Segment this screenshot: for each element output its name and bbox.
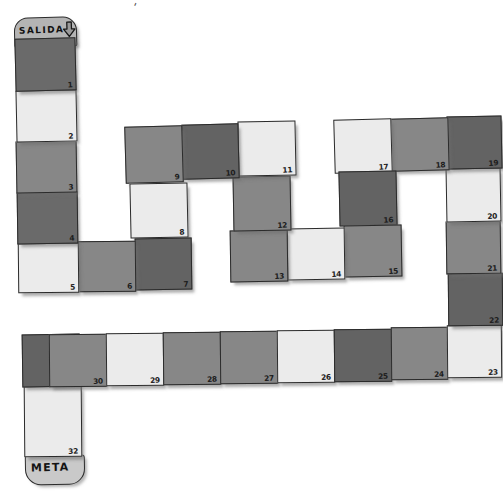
cell-number: 28 bbox=[207, 375, 217, 383]
cell-number: 16 bbox=[384, 216, 394, 224]
cell-number: 11 bbox=[283, 166, 293, 174]
cell-number: 20 bbox=[488, 212, 498, 220]
board-cell[interactable]: 24 bbox=[391, 327, 448, 380]
board-cell[interactable]: 3 bbox=[16, 140, 78, 193]
board-cell[interactable]: 8 bbox=[129, 182, 188, 238]
cell-number: 25 bbox=[378, 372, 388, 380]
cell-number: 17 bbox=[379, 163, 389, 171]
board-cell[interactable]: 22 bbox=[448, 273, 503, 327]
board-cell[interactable]: 4 bbox=[17, 192, 79, 245]
cell-number: 32 bbox=[68, 447, 78, 455]
game-board: ' SALIDA 1234567891011121314151617181920… bbox=[0, 0, 503, 491]
board-cell[interactable]: 30 bbox=[49, 334, 107, 388]
cell-number: 29 bbox=[150, 376, 160, 384]
cell-number: 9 bbox=[175, 173, 180, 181]
board-cell[interactable]: 1 bbox=[14, 37, 76, 91]
goal-label: META bbox=[31, 460, 70, 474]
down-arrow-icon bbox=[61, 21, 78, 39]
cell-number: 24 bbox=[434, 370, 444, 378]
board-cell[interactable]: 5 bbox=[18, 243, 80, 294]
board-cell[interactable]: 9 bbox=[124, 125, 184, 184]
cell-number: 30 bbox=[93, 377, 103, 385]
cell-number: 26 bbox=[321, 373, 331, 381]
board-cell[interactable]: 20 bbox=[446, 168, 502, 223]
board-cell[interactable]: 6 bbox=[78, 241, 137, 293]
cell-number: 2 bbox=[68, 132, 73, 140]
cell-number: 5 bbox=[70, 283, 75, 291]
cell-number: 8 bbox=[179, 228, 184, 236]
board-cell[interactable]: 12 bbox=[233, 175, 292, 231]
board-cell[interactable]: 27 bbox=[220, 331, 278, 385]
board-cell[interactable]: 18 bbox=[390, 117, 449, 171]
board-cell[interactable]: 28 bbox=[163, 332, 221, 386]
board-cell[interactable]: 25 bbox=[334, 329, 392, 383]
board-cell[interactable]: 17 bbox=[333, 118, 392, 174]
board-cell[interactable]: 16 bbox=[338, 170, 397, 226]
cell-number: 4 bbox=[69, 234, 74, 242]
cell-number: 1 bbox=[67, 81, 72, 89]
board-cell[interactable]: 26 bbox=[277, 330, 335, 384]
cell-number: 27 bbox=[264, 374, 274, 382]
board-cell[interactable]: 32 bbox=[24, 386, 83, 458]
cell-number: 14 bbox=[331, 270, 341, 278]
board-cell[interactable]: 10 bbox=[181, 123, 239, 179]
cell-number: 13 bbox=[274, 272, 284, 280]
cell-number: 22 bbox=[489, 316, 499, 324]
cell-number: 3 bbox=[68, 183, 73, 191]
board-cell[interactable]: 14 bbox=[287, 228, 346, 281]
cell-number: 15 bbox=[389, 267, 399, 275]
cell-number: 12 bbox=[278, 221, 288, 229]
cell-number: 7 bbox=[183, 280, 188, 288]
board-cell[interactable]: 23 bbox=[447, 325, 502, 378]
board-cell[interactable]: 7 bbox=[135, 238, 193, 291]
board-cell[interactable]: 29 bbox=[106, 333, 164, 387]
board-cell[interactable]: 15 bbox=[344, 224, 403, 277]
board-cell[interactable]: 21 bbox=[446, 221, 502, 275]
board-cell[interactable]: 2 bbox=[15, 89, 77, 142]
cell-number: 10 bbox=[226, 169, 236, 177]
stray-pen-mark: ' bbox=[132, 1, 144, 13]
cell-number: 19 bbox=[489, 159, 499, 167]
cell-number: 21 bbox=[487, 264, 497, 272]
board-cell[interactable]: 19 bbox=[446, 115, 502, 169]
board-cell[interactable]: 11 bbox=[237, 120, 296, 176]
start-label: SALIDA bbox=[19, 24, 65, 36]
board-cell[interactable]: 13 bbox=[230, 230, 289, 283]
cell-number: 23 bbox=[488, 368, 498, 376]
cell-number: 6 bbox=[127, 282, 132, 290]
cell-number: 18 bbox=[436, 161, 446, 169]
